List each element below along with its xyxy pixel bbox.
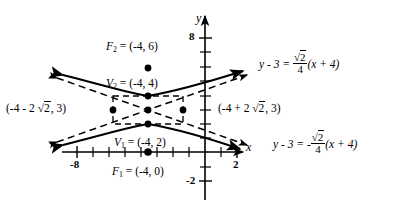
focus-upper-name: F bbox=[106, 40, 113, 52]
hyperbola-figure: y x 8 -2 -8 2 F2 = (-4, 6) V2 = (-4, 4) … bbox=[0, 0, 401, 208]
vertex-lower-subscript: 1 bbox=[121, 141, 125, 150]
point-covertex-left bbox=[110, 107, 117, 114]
focus-lower-subscript: 1 bbox=[119, 170, 123, 179]
covertex-left-open: (-4 - 2 bbox=[6, 102, 38, 114]
label-vertex-lower: V1 = (-4, 2) bbox=[114, 137, 166, 150]
point-focus-upper bbox=[145, 65, 152, 72]
covertex-left-close: , 3) bbox=[51, 102, 66, 114]
x-tick-label-2: 2 bbox=[233, 159, 239, 170]
x-axis-label: x bbox=[246, 141, 251, 153]
vertex-upper-coords: (-4, 4) bbox=[129, 77, 158, 89]
focus-lower-equals: = bbox=[126, 165, 133, 177]
sqrt-radical-left: √2 bbox=[38, 103, 51, 115]
label-vertex-upper: V2 = (-4, 4) bbox=[106, 78, 158, 91]
point-vertex-lower bbox=[145, 121, 152, 128]
asymptote-positive-rhs: (x + 4) bbox=[307, 58, 339, 70]
radical-sign-right: √ bbox=[252, 102, 258, 114]
focus-lower-coords: (-4, 0) bbox=[135, 165, 164, 177]
vertex-upper-equals: = bbox=[120, 77, 127, 89]
asymptote-positive-denominator: 4 bbox=[293, 63, 307, 75]
asymptote-negative-rhs: (x + 4) bbox=[325, 138, 357, 150]
covertex-right-open: (-4 + 2 bbox=[218, 102, 252, 114]
y-tick-label-neg2: -2 bbox=[186, 175, 195, 186]
vertex-lower-equals: = bbox=[128, 136, 135, 148]
radicand-asym-neg: 2 bbox=[318, 130, 324, 143]
radicand-left: 2 bbox=[44, 101, 51, 114]
point-center bbox=[145, 107, 152, 114]
asymptote-positive-lhs: y - 3 = bbox=[259, 58, 293, 70]
vertex-upper-name: V bbox=[106, 77, 113, 89]
radical-sign-asym-neg: √ bbox=[312, 131, 318, 143]
x-tick-label-neg8: -8 bbox=[70, 159, 79, 170]
vertex-lower-name: V bbox=[114, 136, 121, 148]
label-covertex-right: (-4 + 2 √2, 3) bbox=[218, 103, 281, 115]
y-axis-label: y bbox=[196, 12, 201, 24]
vertex-upper-subscript: 2 bbox=[113, 82, 117, 91]
focus-lower-name: F bbox=[112, 165, 119, 177]
focus-upper-equals: = bbox=[120, 40, 127, 52]
point-covertex-right bbox=[180, 107, 187, 114]
covertex-right-close: , 3) bbox=[265, 102, 280, 114]
label-focus-upper: F2 = (-4, 6) bbox=[106, 41, 158, 54]
y-tick-label-8: 8 bbox=[189, 31, 195, 42]
point-vertex-upper bbox=[145, 93, 152, 100]
asymptote-positive-numerator: √2 bbox=[293, 52, 307, 63]
sqrt-radical-asym-neg: √2 bbox=[312, 132, 324, 143]
asymptote-negative-fraction: √2 4 bbox=[311, 132, 325, 155]
asymptote-negative-denominator: 4 bbox=[311, 143, 325, 155]
focus-upper-coords: (-4, 6) bbox=[129, 40, 158, 52]
y-axis bbox=[199, 16, 212, 200]
asymptote-positive-fraction: √2 4 bbox=[293, 52, 307, 75]
sqrt-radical-asym-pos: √2 bbox=[294, 52, 306, 63]
asymptote-negative-lhs: y - 3 = bbox=[273, 138, 307, 150]
label-focus-lower: F1 = (-4, 0) bbox=[112, 166, 164, 179]
label-asymptote-positive: y - 3 = √2 4 (x + 4) bbox=[259, 52, 339, 75]
sqrt-radical-right: √2 bbox=[252, 103, 265, 115]
label-asymptote-negative: y - 3 = - √2 4 (x + 4) bbox=[273, 132, 357, 155]
radical-sign-left: √ bbox=[38, 102, 44, 114]
label-covertex-left: (-4 - 2 √2, 3) bbox=[6, 103, 66, 115]
radicand-asym-pos: 2 bbox=[300, 50, 306, 63]
focus-upper-subscript: 2 bbox=[113, 45, 117, 54]
asymptote-negative-numerator: √2 bbox=[311, 132, 325, 143]
vertex-lower-coords: (-4, 2) bbox=[137, 136, 166, 148]
